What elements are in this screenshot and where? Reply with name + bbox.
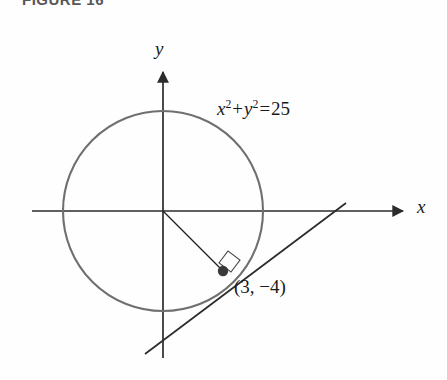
y-axis-label: y: [155, 38, 163, 60]
tangent-point-label: (3, −4): [234, 276, 286, 298]
figure-container: FIGURE 16 x y x2+y2=25 (3, −4): [0, 0, 447, 380]
radius-segment: [163, 211, 223, 271]
geometry-plot: [0, 0, 447, 380]
equation-plus-operator: +: [231, 98, 244, 119]
x-axis-label: x: [417, 196, 425, 218]
circle-equation-label: x2+y2=25: [217, 98, 290, 120]
tangent-point-marker: [218, 266, 228, 276]
equation-equals-operator: =: [258, 98, 271, 119]
equation-value: 25: [271, 98, 290, 119]
